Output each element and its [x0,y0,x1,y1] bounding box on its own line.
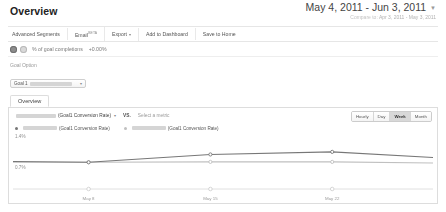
date-range-value[interactable]: May 4, 2011 - Jun 3, 2011▼ [306,1,436,13]
export-label: Export [112,31,127,37]
granularity-button-group: Hourly Day Week Month [351,111,432,122]
email-label: Email [75,32,88,38]
granularity-month-button[interactable]: Month [411,112,431,121]
redacted-series-name [132,126,166,130]
compare-range-text: Apr 3, 2011 - May 3, 2011 [379,14,436,20]
advanced-segments-button[interactable]: Advanced Segments [10,28,68,40]
goal-option-select[interactable]: Goal 1 ▾ [10,79,86,88]
conversion-rate-chart: 1.4% 0.7% May 8May 15May 22 [13,133,433,203]
legend-item-label: (Goal1 Conversion Rate) [59,126,110,131]
x-axis-tick-marker [209,187,213,191]
granularity-hourly-button[interactable]: Hourly [352,112,374,121]
analytics-goals-overview-page: Overview May 4, 2011 - Jun 3, 2011▼ Comp… [0,0,446,212]
x-axis-tick-label: May 15 [203,196,217,201]
metric-summary-row: % of goal completions +0.00% [8,42,438,57]
chart-plot-area [13,133,433,203]
chevron-down-icon[interactable]: ▼ [430,5,436,11]
chart-data-point[interactable] [209,160,212,163]
save-to-home-button[interactable]: Save to Home [196,28,243,40]
vs-label: VS. [123,113,131,118]
chart-data-point[interactable] [87,161,90,164]
primary-metric-label: (Goal1 Conversion Rate) [58,113,111,118]
advanced-segments-label: Advanced Segments [12,31,60,37]
compare-label: Compare to: [350,14,378,20]
chart-data-point[interactable] [331,150,334,153]
legend-color-swatch-icon [15,127,18,130]
legend-item-label: (Goal1 Conversion Rate) [168,126,219,131]
email-button[interactable]: EmailBETA [68,27,105,41]
legend-color-swatch-icon [124,127,127,130]
x-axis-tick-marker [330,187,334,191]
date-range-text: May 4, 2011 - Jun 3, 2011 [306,1,426,13]
chevron-down-icon: ▾ [129,32,131,37]
redacted-goal-name [30,82,72,86]
chart-line-series [13,152,433,162]
chart-data-point[interactable] [331,160,334,163]
tab-overview-label: Overview [18,98,41,104]
chart-legend: (Goal1 Conversion Rate) (Goal1 Conversio… [9,123,437,133]
x-axis-tick-marker [87,187,91,191]
goal-option-label: Goal Option [10,62,438,68]
redacted-series-name [23,126,57,130]
x-axis: May 8May 15May 22 [13,196,433,204]
goal-option-selected-value: Goal 1 [14,81,28,86]
x-axis-tick-label: May 8 [83,196,95,201]
page-title: Overview [10,5,58,17]
metric-summary-delta: +0.00% [89,46,107,52]
export-button[interactable]: Export▾ [105,28,139,41]
primary-metric-selector[interactable]: (Goal1 Conversion Rate) ▾ [14,113,116,118]
beta-badge: BETA [88,31,97,35]
panel-tabstrip: Overview [8,95,438,108]
legend-item[interactable]: (Goal1 Conversion Rate) [124,126,219,131]
panel-body: (Goal1 Conversion Rate) ▾ VS. Select a m… [8,108,438,204]
tab-overview[interactable]: Overview [10,95,49,107]
chart-data-point[interactable] [209,153,212,156]
metric-summary-label: % of goal completions [32,46,83,52]
granularity-week-button[interactable]: Week [390,112,410,121]
goal-option-block: Goal Option Goal 1 ▾ [8,57,438,93]
add-to-dashboard-label: Add to Dashboard [146,31,188,37]
date-range-compare: Compare to: Apr 3, 2011 - May 3, 2011 [306,14,436,20]
page-header: Overview May 4, 2011 - Jun 3, 2011▼ Comp… [8,0,438,26]
secondary-metric-selector[interactable]: Select a metric [138,113,170,118]
donut-chart-icon[interactable] [20,46,27,53]
overview-panel: Overview (Goal1 Conversion Rate) ▾ VS. S… [8,95,438,204]
x-axis-tick-label: May 22 [325,196,339,201]
metric-selector-row: (Goal1 Conversion Rate) ▾ VS. Select a m… [9,108,437,123]
granularity-day-button[interactable]: Day [374,112,391,121]
pie-chart-icon[interactable] [10,46,17,53]
legend-item[interactable]: (Goal1 Conversion Rate) [15,126,110,131]
redacted-metric-name [16,114,56,118]
add-to-dashboard-button[interactable]: Add to Dashboard [139,28,196,40]
chevron-down-icon[interactable]: ▾ [74,81,82,86]
save-to-home-label: Save to Home [203,31,236,37]
action-toolbar: Advanced Segments EmailBETA Export▾ Add … [8,26,438,42]
chevron-down-icon[interactable]: ▾ [114,113,116,118]
date-range-selector[interactable]: May 4, 2011 - Jun 3, 2011▼ Compare to: A… [306,1,436,20]
